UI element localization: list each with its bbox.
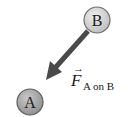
object-a: A (17, 89, 43, 115)
object-b: B (84, 7, 110, 33)
force-diagram: B A → F A on B (0, 0, 128, 117)
force-symbol: F (70, 71, 82, 90)
object-b-label: B (92, 12, 103, 29)
force-subscript: A on B (83, 80, 114, 92)
object-a-label: A (24, 94, 36, 111)
force-label: → F A on B (70, 62, 114, 92)
